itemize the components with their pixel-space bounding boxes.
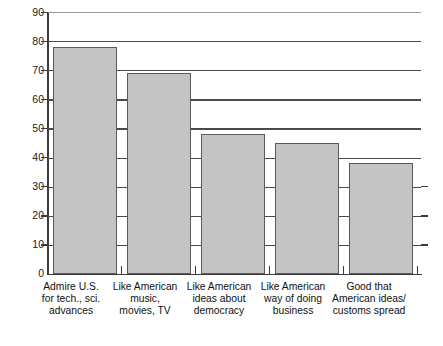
x-category-label-4: Good that American ideas/ customs spread xyxy=(310,281,428,318)
y-tick-label-80: 80 xyxy=(16,36,44,47)
bar-4 xyxy=(349,163,413,274)
bar-3 xyxy=(275,143,339,274)
y-tick-label-70: 70 xyxy=(16,65,44,76)
gridline-90 xyxy=(48,12,421,13)
plot-area xyxy=(48,12,421,274)
y-tick-mark-right-10 xyxy=(421,244,428,245)
y-tick-label-40: 40 xyxy=(16,152,44,163)
y-tick-label-60: 60 xyxy=(16,94,44,105)
bar-0 xyxy=(53,47,117,274)
x-tick-mark-5 xyxy=(417,266,418,274)
y-tick-label-0: 0 xyxy=(16,268,44,279)
y-tick-label-30: 30 xyxy=(16,181,44,192)
y-tick-mark-right-20 xyxy=(421,215,428,216)
bar-2 xyxy=(201,134,265,274)
y-tick-mark-right-30 xyxy=(421,186,428,187)
bar-1 xyxy=(127,73,191,274)
x-tick-mark-1 xyxy=(121,266,122,274)
gridline-80 xyxy=(48,41,421,42)
y-tick-label-20: 20 xyxy=(16,210,44,221)
x-tick-mark-4 xyxy=(343,266,344,274)
bar-chart: 90 80 70 60 50 40 30 20 10 0 xyxy=(0,0,443,346)
x-tick-mark-2 xyxy=(195,266,196,274)
x-tick-mark-3 xyxy=(269,266,270,274)
y-tick-label-10: 10 xyxy=(16,239,44,250)
y-tick-label-50: 50 xyxy=(16,123,44,134)
y-tick-label-90: 90 xyxy=(16,7,44,18)
